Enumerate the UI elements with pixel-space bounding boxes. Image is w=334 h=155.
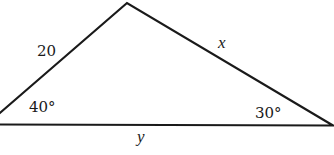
triangle-shape [0,0,334,155]
angle-label-right: 30° [255,106,282,121]
triangle-diagram: 20 x y 40° 30° [0,0,334,155]
side-label-base: y [137,128,145,145]
side-label-left: 20 [37,44,56,59]
angle-label-left: 40° [29,100,56,115]
side-label-right: x [218,34,226,51]
